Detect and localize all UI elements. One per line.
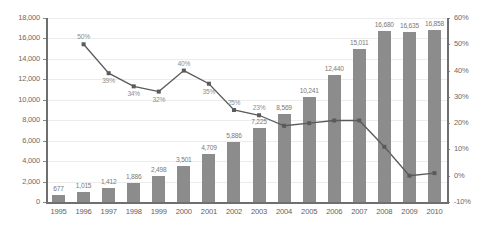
line-marker <box>207 82 211 86</box>
chart-container: 02,0004,0006,0008,00010,00012,00014,0001… <box>0 0 493 232</box>
bar <box>253 128 266 202</box>
right-axis-tick-label: 40% <box>454 67 468 75</box>
line-percent-label: 40% <box>168 61 200 68</box>
line-percent-label: 21% <box>343 111 375 118</box>
line-percent-label: 39% <box>93 78 125 85</box>
bar <box>403 32 416 202</box>
bar <box>152 176 165 202</box>
line-percent-label: 35% <box>193 89 225 96</box>
left-axis-tick-label: 14,000 <box>0 55 40 63</box>
bar-value-label: 7,225 <box>239 119 279 126</box>
line-percent-label: 1% <box>418 178 450 185</box>
bar-value-label: 3,501 <box>164 157 204 164</box>
bar-value-label: 5,886 <box>214 133 254 140</box>
bar-value-label: 12,440 <box>314 66 354 73</box>
right-axis-tick-label: -10% <box>454 198 471 206</box>
bar-value-label: 1,886 <box>114 174 154 181</box>
bar-value-label: 4,709 <box>189 145 229 152</box>
right-axis-tick-label: 10% <box>454 145 468 153</box>
left-axis-tick-label: 10,000 <box>0 96 40 104</box>
left-axis-tick-label: 6,000 <box>0 137 40 145</box>
line-marker <box>82 42 86 46</box>
line-marker <box>232 108 236 112</box>
left-axis-tick-label: 4,000 <box>0 157 40 165</box>
gridline <box>46 18 447 19</box>
bar <box>378 31 391 202</box>
line-percent-label: 21% <box>318 126 350 133</box>
line-marker <box>182 69 186 73</box>
line-percent-label: 11% <box>368 152 400 159</box>
left-axis-tick-label: 8,000 <box>0 116 40 124</box>
bar <box>127 183 140 202</box>
bar-value-label: 10,241 <box>289 88 329 95</box>
x-axis-label: 2010 <box>418 208 450 216</box>
bar <box>52 195 65 202</box>
right-axis-tick-label: 50% <box>454 40 468 48</box>
right-axis-tick-label: 60% <box>454 14 468 22</box>
left-axis-tick-label: 16,000 <box>0 34 40 42</box>
right-axis-tick-label: 0% <box>454 172 464 180</box>
right-axis-tick-label: 20% <box>454 119 468 127</box>
left-axis-line <box>46 18 48 204</box>
line-marker <box>107 71 111 75</box>
bar <box>303 97 316 202</box>
left-axis-tick-label: 2,000 <box>0 178 40 186</box>
x-axis-line <box>46 202 449 204</box>
bar <box>177 166 190 202</box>
bar <box>202 154 215 202</box>
bar <box>102 188 115 202</box>
bar-value-label: 2,498 <box>139 167 179 174</box>
line-marker <box>257 113 261 117</box>
bar <box>227 142 240 202</box>
line-percent-label: 23% <box>243 105 275 112</box>
bar <box>278 114 291 202</box>
right-axis-tick-label: 30% <box>454 93 468 101</box>
line-percent-label: 32% <box>143 97 175 104</box>
bar <box>77 192 90 202</box>
left-axis-tick-label: 12,000 <box>0 75 40 83</box>
bar <box>353 49 366 202</box>
left-axis-tick-label: 18,000 <box>0 14 40 22</box>
right-axis-line <box>447 18 449 204</box>
line-marker <box>157 90 161 94</box>
line-marker <box>132 84 136 88</box>
left-axis-tick-label: 0 <box>0 198 40 206</box>
bar-value-label: 15,011 <box>339 40 379 47</box>
bar <box>328 75 341 202</box>
line-percent-label: 50% <box>68 34 100 41</box>
